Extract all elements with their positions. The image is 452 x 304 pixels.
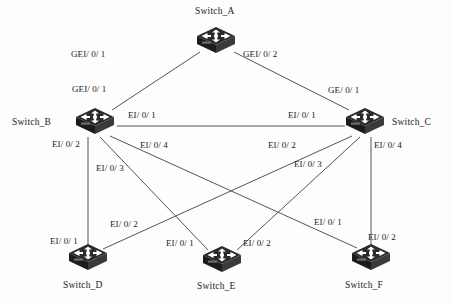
port-label-e-e02: EI/ 0/ 2 — [243, 238, 271, 248]
link-b-f — [110, 136, 357, 248]
switch-icon[interactable] — [66, 241, 110, 275]
node-label-a: Switch_A — [195, 6, 235, 16]
network-topology-diagram: Switch_ASwitch_BSwitch_CSwitch_DSwitch_E… — [0, 0, 452, 304]
port-label-c-e02: EI/ 0/ 2 — [268, 140, 296, 150]
port-label-e-e01: EI/ 0/ 1 — [166, 238, 194, 248]
port-label-b-e03: EI/ 0/ 3 — [96, 163, 124, 173]
port-label-f-e02: EI/ 0/ 2 — [368, 232, 396, 242]
link-c-d — [103, 136, 352, 249]
port-label-b-to-a: GEI/ 0/ 1 — [71, 49, 105, 59]
link-b-a — [112, 52, 200, 110]
switch-icon[interactable] — [349, 241, 393, 275]
node-label-c: Switch_C — [392, 117, 431, 127]
port-label-c-e03: EI/ 0/ 3 — [294, 159, 322, 169]
port-label-f-e01: EI/ 0/ 1 — [314, 217, 342, 227]
port-label-c-e04: EI/ 0/ 4 — [374, 140, 402, 150]
switch-icon[interactable] — [194, 24, 238, 58]
port-label-b-e02: EI/ 0/ 2 — [52, 139, 80, 149]
port-label-c-up: GE/ 0/ 1 — [328, 85, 359, 95]
port-label-c-e01: EI/ 0/ 1 — [288, 110, 316, 120]
node-label-e: Switch_E — [197, 281, 236, 291]
switch-icon[interactable] — [200, 243, 244, 277]
port-label-d-e01: EI/ 0/ 1 — [50, 236, 78, 246]
node-label-f: Switch_F — [345, 280, 383, 290]
node-label-b: Switch_B — [12, 117, 51, 127]
link-b-e — [100, 137, 208, 250]
port-label-d-e02: EI/ 0/ 2 — [110, 219, 138, 229]
node-label-d: Switch_D — [63, 280, 103, 290]
switch-icon[interactable] — [343, 105, 387, 139]
link-a-c — [234, 52, 349, 110]
port-label-a-to-c: GEI/ 0/ 2 — [243, 49, 277, 59]
port-label-b-e04: EI/ 0/ 4 — [140, 140, 168, 150]
port-label-b-up: GEI/ 0/ 1 — [72, 84, 106, 94]
link-c-e — [237, 137, 360, 250]
switch-icon[interactable] — [73, 105, 117, 139]
port-label-b-e01: EI/ 0/ 1 — [128, 110, 156, 120]
